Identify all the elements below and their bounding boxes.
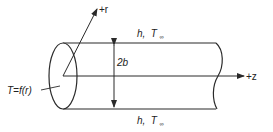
top-bc-subscript: ∞ — [159, 34, 163, 40]
cylinder-diagram: +r +z 2b T=f(r) h, T ∞ h, T ∞ — [0, 0, 273, 132]
bottom-bc-subscript: ∞ — [159, 121, 163, 127]
diameter-label: 2b — [116, 57, 129, 68]
bottom-bc-label: h, T ∞ — [137, 115, 164, 127]
bottom-bc-T: T — [151, 115, 158, 126]
temperature-label: T=f(r) — [7, 85, 32, 96]
z-axis-label: +z — [246, 71, 257, 82]
top-bc-T: T — [151, 28, 158, 39]
top-bc-label: h, T ∞ — [137, 28, 164, 40]
bottom-bc-h: h, — [137, 115, 145, 126]
top-bc-h: h, — [137, 28, 145, 39]
r-axis-label: +r — [99, 4, 109, 15]
